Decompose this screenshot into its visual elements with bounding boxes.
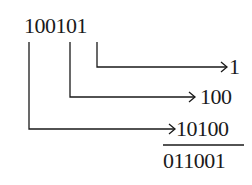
connector-arrow-3 bbox=[29, 42, 175, 129]
connector-arrow-1 bbox=[97, 42, 227, 67]
term-1: 1 bbox=[229, 56, 240, 78]
term-3: 10100 bbox=[176, 118, 229, 140]
term-2: 100 bbox=[200, 86, 232, 108]
connector-arrow-2 bbox=[70, 42, 195, 97]
result-number: 011001 bbox=[163, 150, 225, 172]
